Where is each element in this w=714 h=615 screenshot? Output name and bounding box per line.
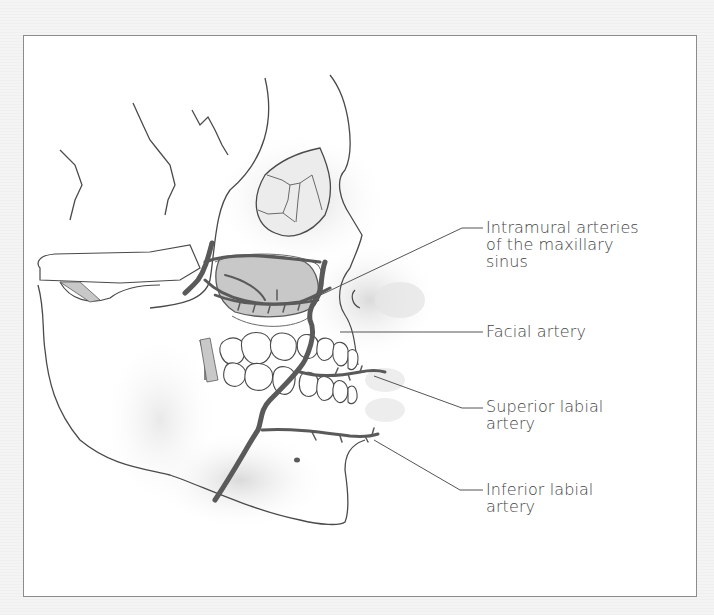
label-line: Facial artery [486, 323, 586, 340]
mental-foramen [294, 458, 300, 463]
label-superior-labial-artery: Superior labial artery [486, 398, 603, 432]
label-intramural-arteries: Intramural arteries of the maxillary sin… [486, 219, 639, 270]
label-line: artery [486, 415, 603, 432]
zygomatic-arch [38, 245, 200, 302]
label-facial-artery: Facial artery [486, 323, 586, 340]
label-line: sinus [486, 253, 639, 270]
label-line: Superior labial [486, 398, 603, 415]
label-line: of the maxillary [486, 236, 639, 253]
label-line: artery [486, 498, 593, 515]
label-inferior-labial-artery: Inferior labial artery [486, 481, 593, 515]
skull-illustration [0, 0, 714, 615]
label-line: Intramural arteries [486, 219, 639, 236]
label-line: Inferior labial [486, 481, 593, 498]
leader-inferior-labial [374, 440, 483, 490]
